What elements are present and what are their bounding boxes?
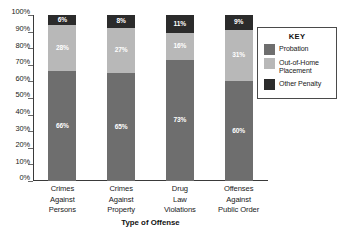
y-axis-tick-mark bbox=[28, 131, 33, 132]
bar-value-label: 31% bbox=[232, 52, 245, 59]
bar-segment[interactable]: 6% bbox=[48, 15, 76, 25]
legend-title: KEY bbox=[258, 32, 336, 41]
x-axis-category-labels: CrimesAgainstPersonsCrimesAgainstPropert… bbox=[33, 184, 268, 218]
y-axis-tick-mark bbox=[28, 148, 33, 149]
bar-stack: 6%28%66% bbox=[48, 15, 76, 181]
y-axis-tick-mark bbox=[28, 164, 33, 165]
bar-value-label: 8% bbox=[116, 18, 125, 25]
bar-value-label: 16% bbox=[173, 43, 186, 50]
legend-item[interactable]: Probation bbox=[264, 44, 333, 55]
bar-value-label: 9% bbox=[234, 19, 243, 26]
y-axis-tick-mark bbox=[28, 48, 33, 49]
x-axis-category-label-line: Drug bbox=[151, 184, 210, 195]
bar-segment[interactable]: 11% bbox=[166, 15, 194, 33]
legend-label: Other Penalty bbox=[279, 79, 321, 88]
bar-segment[interactable]: 9% bbox=[225, 15, 253, 30]
x-axis-category-label: DrugLawViolations bbox=[151, 184, 210, 216]
x-axis-category-label: CrimesAgainstProperty bbox=[92, 184, 151, 216]
bar-value-label: 11% bbox=[174, 21, 187, 28]
legend-item[interactable]: Out-of-HomePlacement bbox=[264, 58, 333, 76]
bar-stack: 9%31%60% bbox=[225, 15, 253, 181]
legend-item[interactable]: Other Penalty bbox=[264, 79, 333, 90]
bar-value-label: 27% bbox=[115, 47, 128, 54]
legend-items: ProbationOut-of-HomePlacementOther Penal… bbox=[264, 44, 333, 93]
bar-group[interactable]: 11%16%73% bbox=[166, 15, 194, 181]
legend-label: Out-of-HomePlacement bbox=[279, 58, 319, 76]
bar-value-label: 66% bbox=[56, 123, 69, 130]
legend-label-line: Other Penalty bbox=[279, 80, 321, 88]
bar-segment[interactable]: 73% bbox=[166, 60, 194, 181]
y-axis-tick-mark bbox=[28, 98, 33, 99]
x-axis-category-label-line: Against bbox=[92, 195, 151, 206]
bar-value-label: 60% bbox=[232, 128, 245, 135]
x-axis-category-label-line: Violations bbox=[151, 205, 210, 216]
y-axis-tick-mark bbox=[28, 81, 33, 82]
x-axis-category-label: CrimesAgainstPersons bbox=[33, 184, 92, 216]
legend-label-line: Out-of-Home bbox=[279, 59, 319, 67]
x-axis-category-label-line: Crimes bbox=[33, 184, 92, 195]
x-axis-title: Type of Offense bbox=[33, 218, 268, 227]
x-axis-category-label-line: Crimes bbox=[92, 184, 151, 195]
y-axis-tick-mark bbox=[28, 32, 33, 33]
bar-value-label: 6% bbox=[58, 17, 67, 24]
legend-swatch bbox=[264, 44, 275, 55]
x-axis-category-label-line: Public Order bbox=[209, 205, 268, 216]
bar-segment[interactable]: 65% bbox=[107, 73, 135, 181]
bar-group[interactable]: 6%28%66% bbox=[48, 15, 76, 181]
bar-value-label: 73% bbox=[173, 117, 186, 124]
x-axis-category-label-line: Against bbox=[33, 195, 92, 206]
stacked-bar-chart: 0%10%20%30%40%50%60%70%80%90%100% 6%28%6… bbox=[0, 0, 342, 245]
bar-segment[interactable]: 27% bbox=[107, 28, 135, 73]
bar-segment[interactable]: 8% bbox=[107, 15, 135, 28]
bar-group[interactable]: 9%31%60% bbox=[225, 15, 253, 181]
legend-label-line: Placement bbox=[279, 67, 319, 75]
y-axis-tick-labels: 0%10%20%30%40%50%60%70%80%90%100% bbox=[0, 12, 30, 180]
legend-swatch bbox=[264, 79, 275, 90]
bar-stack: 8%27%65% bbox=[107, 15, 135, 181]
x-axis-category-label-line: Property bbox=[92, 205, 151, 216]
bar-segment[interactable]: 16% bbox=[166, 33, 194, 60]
bar-segment[interactable]: 28% bbox=[48, 25, 76, 71]
x-axis-category-label-line: Offenses bbox=[209, 184, 268, 195]
bar-segment[interactable]: 60% bbox=[225, 81, 253, 181]
legend: KEY ProbationOut-of-HomePlacementOther P… bbox=[257, 27, 337, 99]
bar-value-label: 65% bbox=[115, 124, 128, 131]
bar-segment[interactable]: 66% bbox=[48, 71, 76, 181]
legend-label: Probation bbox=[279, 44, 308, 53]
x-axis-category-label: OffensesAgainstPublic Order bbox=[209, 184, 268, 216]
bar-stack: 11%16%73% bbox=[166, 15, 194, 181]
legend-label-line: Probation bbox=[279, 45, 308, 53]
bar-value-label: 28% bbox=[56, 45, 69, 52]
bar-segment[interactable]: 31% bbox=[225, 30, 253, 81]
y-axis-tick-mark bbox=[28, 15, 33, 16]
y-axis-tick-mark bbox=[28, 65, 33, 66]
x-axis-category-label-line: Persons bbox=[33, 205, 92, 216]
x-axis-category-label-line: Against bbox=[209, 195, 268, 206]
legend-swatch bbox=[264, 58, 275, 69]
y-axis-tick-mark bbox=[28, 181, 33, 182]
plot-area: 6%28%66%8%27%65%11%16%73%9%31%60% bbox=[33, 15, 268, 181]
x-axis-category-label-line: Law bbox=[151, 195, 210, 206]
bar-group[interactable]: 8%27%65% bbox=[107, 15, 135, 181]
y-axis-tick-mark bbox=[28, 115, 33, 116]
